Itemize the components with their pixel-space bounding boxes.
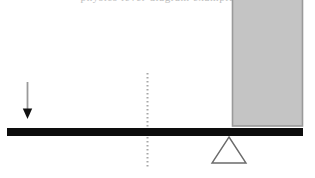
fulcrum-triangle [212, 137, 246, 163]
diagram-canvas [0, 0, 315, 178]
load-block [233, 0, 303, 126]
lever-diagram: physics lever diagram example [0, 0, 315, 178]
force-arrow-head-icon [23, 109, 32, 120]
lever-beam [7, 128, 303, 136]
